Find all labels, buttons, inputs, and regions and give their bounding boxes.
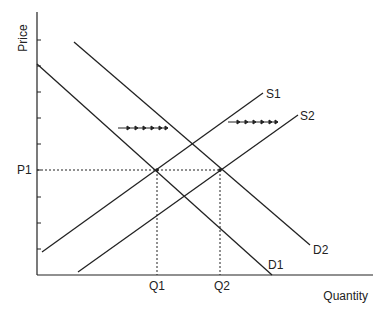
supply-curve-s2: [78, 115, 298, 272]
axes: [37, 12, 373, 275]
equilibrium-point-2: [218, 168, 222, 172]
supply-shift-arrow-icon: [228, 120, 278, 124]
demand-curve-d1: [37, 64, 272, 275]
curves: [37, 42, 310, 275]
d1-label: D1: [268, 258, 284, 272]
supply-demand-diagram: Price Quantity P1 Q1 Q2 S1 S2 D1 D2: [0, 0, 385, 314]
q1-label: Q1: [149, 279, 165, 293]
s1-label: S1: [266, 87, 281, 101]
demand-shift-arrow-icon: [118, 126, 168, 130]
y-axis-label: Price: [16, 24, 30, 52]
p1-label: P1: [17, 163, 32, 177]
x-axis-label: Quantity: [323, 289, 368, 303]
q2-label: Q2: [214, 279, 230, 293]
guide-lines: [37, 170, 220, 275]
s2-label: S2: [300, 109, 315, 123]
supply-curve-s1: [42, 93, 263, 252]
equilibrium-point-1: [155, 168, 159, 172]
d2-label: D2: [313, 243, 329, 257]
